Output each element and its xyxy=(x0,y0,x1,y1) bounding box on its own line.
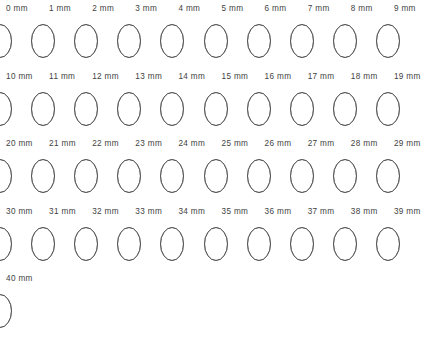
cell-label: 4 mm xyxy=(178,4,200,14)
overlap-cell: 28 mm xyxy=(345,139,388,206)
overlap-cell: 9 mm xyxy=(388,4,431,71)
ellipse-pair-graphic xyxy=(345,151,388,201)
overlap-cell: 14 mm xyxy=(172,72,215,139)
overlap-cell: 19 mm xyxy=(388,72,431,139)
cell-label: 24 mm xyxy=(178,139,205,149)
cell-label: 23 mm xyxy=(135,139,162,149)
cell-label: 34 mm xyxy=(178,207,205,217)
cell-label: 11 mm xyxy=(49,72,75,82)
ellipse-pair-graphic xyxy=(302,151,345,201)
ellipse-pair-graphic xyxy=(345,219,388,269)
cell-label: 3 mm xyxy=(135,4,157,14)
cell-label: 5 mm xyxy=(222,4,244,14)
overlap-cell: 4 mm xyxy=(172,4,215,71)
cell-label: 25 mm xyxy=(222,139,249,149)
overlap-cell: 26 mm xyxy=(259,139,302,206)
ellipse-pair-graphic xyxy=(129,151,172,201)
overlap-cell: 10 mm xyxy=(0,72,43,139)
ellipse-pair-graphic xyxy=(43,151,86,201)
cell-label: 17 mm xyxy=(308,72,335,82)
cell-label: 30 mm xyxy=(6,207,33,217)
ellipse-pair-graphic xyxy=(172,84,215,134)
cell-label: 33 mm xyxy=(135,207,162,217)
ellipse-pair-graphic xyxy=(216,219,259,269)
ellipse-pair-graphic xyxy=(172,151,215,201)
ellipse-pair-graphic xyxy=(129,84,172,134)
ellipse-pair-graphic xyxy=(259,219,302,269)
overlap-cell: 38 mm xyxy=(345,207,388,274)
ellipse-pair-graphic xyxy=(129,219,172,269)
overlap-cell: 6 mm xyxy=(259,4,302,71)
overlap-series-figure: 0 mm1 mm2 mm3 mm4 mm5 mm6 mm7 mm8 mm9 mm… xyxy=(0,0,431,340)
ellipse-pair-graphic xyxy=(0,151,43,201)
ellipse-pair-graphic xyxy=(0,286,43,336)
overlap-cell: 0 mm xyxy=(0,4,43,71)
cell-label: 13 mm xyxy=(135,72,162,82)
ellipse-pair-graphic xyxy=(302,219,345,269)
overlap-cell: 30 mm xyxy=(0,207,43,274)
overlap-cell: 39 mm xyxy=(388,207,431,274)
series-row: 0 mm1 mm2 mm3 mm4 mm5 mm6 mm7 mm8 mm9 mm xyxy=(0,4,431,71)
ellipse-pair-graphic xyxy=(259,84,302,134)
overlap-cell: 12 mm xyxy=(86,72,129,139)
cell-label: 35 mm xyxy=(222,207,249,217)
ellipse-pair-graphic xyxy=(388,16,431,66)
ellipse-pair-graphic xyxy=(43,84,86,134)
overlap-cell: 40 mm xyxy=(0,274,43,340)
series-row: 10 mm11 mm12 mm13 mm14 mm15 mm16 mm17 mm… xyxy=(0,72,431,139)
cell-label: 9 mm xyxy=(394,4,416,14)
cell-label: 38 mm xyxy=(351,207,378,217)
cell-label: 14 mm xyxy=(178,72,205,82)
series-row: 30 mm31 mm32 mm33 mm34 mm35 mm36 mm37 mm… xyxy=(0,207,431,274)
cell-label: 36 mm xyxy=(265,207,292,217)
ellipse-pair-graphic xyxy=(388,151,431,201)
overlap-cell: 35 mm xyxy=(216,207,259,274)
cell-label: 19 mm xyxy=(394,72,421,82)
cell-label: 6 mm xyxy=(265,4,287,14)
cell-label: 26 mm xyxy=(265,139,292,149)
cell-label: 39 mm xyxy=(394,207,421,217)
cell-label: 16 mm xyxy=(265,72,292,82)
ellipse-pair-graphic xyxy=(43,16,86,66)
ellipse-pair-graphic xyxy=(302,16,345,66)
overlap-cell: 5 mm xyxy=(216,4,259,71)
ellipse-pair-graphic xyxy=(0,84,43,134)
cell-label: 37 mm xyxy=(308,207,335,217)
ellipse-pair-graphic xyxy=(172,16,215,66)
ellipse-pair-graphic xyxy=(302,84,345,134)
overlap-cell: 18 mm xyxy=(345,72,388,139)
ellipse-pair-graphic xyxy=(388,219,431,269)
overlap-cell: 21 mm xyxy=(43,139,86,206)
overlap-cell: 24 mm xyxy=(172,139,215,206)
cell-label: 12 mm xyxy=(92,72,119,82)
cell-label: 40 mm xyxy=(6,274,33,284)
cell-label: 10 mm xyxy=(6,72,33,82)
overlap-cell: 31 mm xyxy=(43,207,86,274)
cell-label: 0 mm xyxy=(6,4,28,14)
overlap-cell: 2 mm xyxy=(86,4,129,71)
ellipse-pair-graphic xyxy=(259,151,302,201)
overlap-cell: 34 mm xyxy=(172,207,215,274)
ellipse-pair-graphic xyxy=(259,16,302,66)
ellipse-pair-graphic xyxy=(129,16,172,66)
cell-label: 31 mm xyxy=(49,207,76,217)
overlap-cell: 32 mm xyxy=(86,207,129,274)
cell-label: 15 mm xyxy=(222,72,249,82)
cell-label: 8 mm xyxy=(351,4,373,14)
ellipse-pair-graphic xyxy=(86,16,129,66)
ellipse-pair-graphic xyxy=(216,16,259,66)
cell-label: 22 mm xyxy=(92,139,119,149)
overlap-cell: 17 mm xyxy=(302,72,345,139)
overlap-cell: 11 mm xyxy=(43,72,86,139)
overlap-cell: 25 mm xyxy=(216,139,259,206)
ellipse-pair-graphic xyxy=(172,219,215,269)
overlap-cell: 22 mm xyxy=(86,139,129,206)
overlap-cell: 27 mm xyxy=(302,139,345,206)
overlap-cell: 3 mm xyxy=(129,4,172,71)
cell-label: 32 mm xyxy=(92,207,119,217)
overlap-cell: 33 mm xyxy=(129,207,172,274)
overlap-cell: 7 mm xyxy=(302,4,345,71)
overlap-cell: 13 mm xyxy=(129,72,172,139)
ellipse-pair-graphic xyxy=(0,16,43,66)
cell-label: 21 mm xyxy=(49,139,76,149)
